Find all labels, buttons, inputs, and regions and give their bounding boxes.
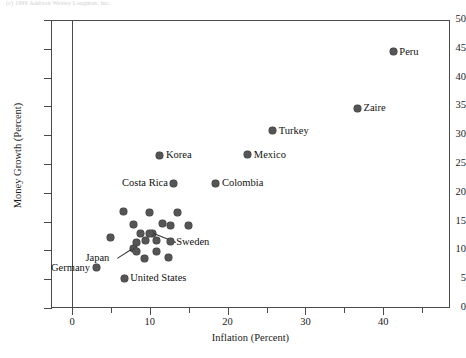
data-point-label: Colombia [222, 177, 263, 188]
y-axis-tick-label: 30 [424, 129, 466, 139]
y-axis-tick-label: 15 [424, 216, 466, 226]
y-axis-tick-label: 45 [424, 43, 466, 53]
x-axis-minor-tick [422, 308, 423, 313]
y-axis-tick [44, 135, 52, 136]
x-axis-tick [383, 308, 384, 315]
x-axis-tick-label: 0 [52, 316, 92, 327]
y-axis-tick [44, 250, 52, 251]
data-point-label: United States [130, 272, 186, 283]
data-point [174, 209, 181, 216]
y-axis-tick [44, 308, 52, 309]
plot-frame [51, 20, 450, 308]
data-point-united-states [121, 275, 128, 282]
y-axis-tick-label: 20 [424, 187, 466, 197]
x-axis-minor-tick [344, 308, 345, 313]
y-axis-tick-label: 35 [424, 100, 466, 110]
y-axis-tick-label: 0 [424, 302, 466, 312]
x-axis-tick-label: 20 [208, 316, 248, 327]
x-axis-tick [150, 308, 151, 315]
copyright-note: (c) 1999 Addison Wesley Longman, Inc. [6, 0, 111, 9]
data-point-label: Costa Rica [0, 177, 168, 188]
y-axis-tick [44, 164, 52, 165]
data-point-label: Germany [0, 262, 90, 273]
y-axis-tick-label: 40 [424, 72, 466, 82]
x-axis-tick-label: 40 [363, 316, 403, 327]
scatter-plot-figure: (c) 1999 Addison Wesley Longman, Inc. 05… [0, 0, 466, 358]
y-axis-tick-label: 5 [424, 273, 466, 283]
data-point [130, 221, 137, 228]
data-point [153, 248, 160, 255]
data-point-label: Turkey [279, 125, 309, 136]
y-axis-tick [44, 222, 52, 223]
y-axis-tick [44, 193, 52, 194]
data-point-germany [93, 264, 100, 271]
y-axis-tick [44, 78, 52, 79]
y-axis-tick [44, 49, 52, 50]
data-point-zaire [354, 105, 361, 112]
x-axis-minor-tick [111, 308, 112, 313]
x-axis-tick [305, 308, 306, 315]
data-point-label: Mexico [254, 149, 286, 160]
data-point [146, 230, 153, 237]
data-point-label: Sweden [176, 236, 209, 247]
x-axis-tick [228, 308, 229, 315]
y-axis-tick-label: 10 [424, 244, 466, 254]
x-axis-minor-tick [189, 308, 190, 313]
data-point-costa-rica [170, 180, 177, 187]
data-point [120, 208, 127, 215]
y-axis-tick [44, 20, 52, 21]
data-point [167, 222, 174, 229]
y-axis-tick-label: 50 [424, 14, 466, 24]
data-point [107, 234, 114, 241]
data-point [141, 255, 148, 262]
data-point [153, 237, 160, 244]
x-axis-tick-label: 10 [130, 316, 170, 327]
data-point-colombia [212, 180, 219, 187]
data-point-label: Korea [166, 149, 192, 160]
y-axis-tick-label: 25 [424, 158, 466, 168]
data-point-peru [390, 48, 397, 55]
x-axis-minor-tick [267, 308, 268, 313]
data-point-label: Peru [399, 46, 418, 57]
data-point-label: Zaire [364, 102, 386, 113]
y-axis-title: Money Growth (Percent) [12, 76, 23, 236]
y-axis-tick [44, 106, 52, 107]
data-point [137, 230, 144, 237]
data-point [167, 238, 174, 245]
y-axis-tick [44, 279, 52, 280]
x-axis-tick [72, 308, 73, 315]
x-axis-tick-label: 30 [285, 316, 325, 327]
x-axis-title: Inflation (Percent) [51, 332, 450, 343]
